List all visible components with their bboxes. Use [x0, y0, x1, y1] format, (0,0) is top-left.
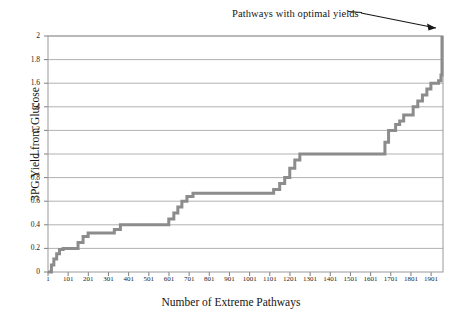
y-axis-title: 3PG Yield from Glucose	[29, 54, 41, 234]
x-tick-label: 901	[224, 276, 235, 283]
x-tick-label: 1701	[384, 276, 398, 283]
x-tick-label: 501	[144, 276, 155, 283]
x-tick-label: 1401	[323, 276, 337, 283]
x-tick-label: 1801	[404, 276, 418, 283]
x-tick-label: 101	[63, 276, 74, 283]
y-tick-label: 0.2	[10, 244, 40, 252]
annotation-arrow	[348, 12, 436, 31]
chart-plot-svg	[0, 0, 462, 320]
optimal-yields-annotation: Pathways with optimal yields	[232, 8, 359, 19]
x-axis-title: Number of Extreme Pathways	[0, 296, 462, 308]
y-tick-marks-group	[44, 36, 48, 272]
y-tick-label: 2	[10, 32, 40, 40]
x-tick-label: 801	[204, 276, 215, 283]
x-tick-label: 301	[103, 276, 114, 283]
chart-figure: 00.20.40.60.811.21.41.61.82 110120130140…	[0, 0, 462, 320]
x-tick-label: 401	[123, 276, 134, 283]
x-tick-label: 1	[46, 276, 50, 283]
x-tick-label: 1501	[343, 276, 357, 283]
x-tick-label: 1101	[263, 276, 277, 283]
x-tick-label: 1301	[303, 276, 317, 283]
x-tick-label: 1901	[424, 276, 438, 283]
y-tick-label: 0	[10, 268, 40, 276]
x-tick-label: 1201	[283, 276, 297, 283]
x-tick-label: 201	[83, 276, 94, 283]
x-tick-label: 701	[184, 276, 195, 283]
x-tick-label: 1001	[243, 276, 257, 283]
x-tick-label: 601	[164, 276, 175, 283]
x-tick-label: 1601	[364, 276, 378, 283]
